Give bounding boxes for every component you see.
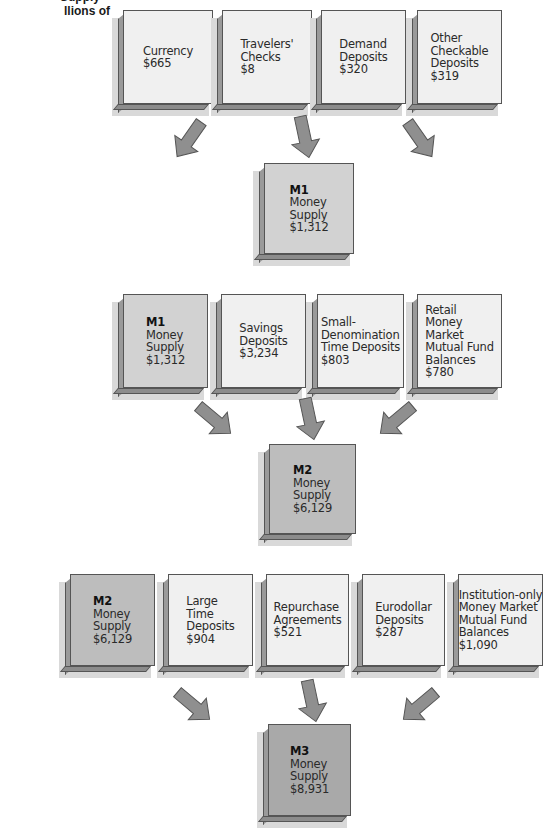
- value: $320: [339, 63, 387, 76]
- box-demand-deposits: Demand Deposits $320: [316, 10, 406, 110]
- label-line: Supply: [93, 620, 132, 633]
- value: $780: [425, 366, 494, 379]
- arrow-down-right-icon: [172, 684, 218, 730]
- arrow-down-icon: [287, 398, 333, 444]
- label-line: Time Deposits: [321, 341, 400, 354]
- box-savings-deposits: Savings Deposits $3,234: [216, 294, 306, 394]
- box-m2-total: M2 Money Supply $6,129: [264, 444, 356, 540]
- box-retail-money-market-funds: Retail Money Market Mutual Fund Balances…: [412, 294, 502, 394]
- label-line: Supply: [146, 341, 185, 354]
- label-line: Other: [431, 32, 489, 45]
- value: $6,129: [293, 502, 332, 515]
- box-m1-input: M1 Money Supply $1,312: [118, 294, 208, 394]
- label-line: Money Market: [459, 601, 543, 614]
- value: $1,090: [459, 639, 543, 652]
- value: $3,234: [239, 347, 287, 360]
- label-line: Travelers': [240, 38, 293, 51]
- box-small-denomination-time-deposits: Small- Denomination Time Deposits $803: [312, 294, 404, 394]
- label-line: Savings: [239, 322, 287, 335]
- label-line: Large: [186, 595, 234, 608]
- title-line-2: llions of: [0, 4, 112, 18]
- arrow-down-left-icon: [372, 398, 418, 444]
- label-line: Balances: [459, 626, 543, 639]
- aggregate-name: M1: [146, 316, 185, 329]
- value: $287: [375, 626, 432, 639]
- label-line: Eurodollar: [375, 601, 432, 614]
- arrow-down-right-icon: [193, 398, 239, 444]
- box-eurodollar-deposits: Eurodollar Deposits $287: [357, 574, 445, 672]
- arrow-down-left-icon: [395, 684, 441, 730]
- label-line: Deposits: [431, 57, 489, 70]
- box-m2-input: M2 Money Supply $6,129: [65, 574, 155, 672]
- box-repurchase-agreements: Repurchase Agreements $521: [261, 574, 349, 672]
- value: $1,312: [146, 354, 185, 367]
- value: $904: [186, 633, 234, 646]
- label-line: Small-: [321, 316, 400, 329]
- aggregate-name: M2: [293, 464, 332, 477]
- label-line: Deposits: [186, 620, 234, 633]
- arrow-down-right-icon: [165, 118, 211, 164]
- aggregate-name: M2: [93, 595, 132, 608]
- label-line: Mutual Fund: [425, 341, 494, 354]
- label-line: Demand: [339, 38, 387, 51]
- box-travelers-checks: Travelers' Checks $8: [217, 10, 312, 110]
- value: $1,312: [289, 221, 328, 234]
- value: $8,931: [290, 783, 329, 796]
- label-line: Money: [289, 196, 328, 209]
- label-line: Supply: [293, 489, 332, 502]
- label-line: Money: [425, 316, 494, 329]
- box-currency: Currency $665: [118, 10, 213, 110]
- arrow-down-left-icon: [398, 118, 444, 164]
- box-other-checkable-deposits: Other Checkable Deposits $319: [412, 10, 502, 110]
- arrow-down-icon: [282, 116, 328, 162]
- value: $521: [274, 626, 342, 639]
- box-institution-only-money-market-funds: Institution-only Money Market Mutual Fun…: [453, 574, 543, 672]
- value: $8: [240, 63, 293, 76]
- arrow-down-icon: [289, 680, 335, 726]
- value: $6,129: [93, 633, 132, 646]
- value: $665: [143, 57, 193, 70]
- box-large-time-deposits: Large Time Deposits $904: [163, 574, 253, 672]
- aggregate-name: M3: [290, 745, 329, 758]
- box-m1-total: M1 Money Supply $1,312: [259, 163, 354, 260]
- figure-title-fragment: Supply llions of: [0, 0, 112, 18]
- value: $803: [321, 354, 400, 367]
- box-m3-total: M3 Money Supply $8,931: [263, 724, 351, 822]
- value: $319: [431, 70, 489, 83]
- label-line: Supply: [290, 770, 329, 783]
- label-line: Repurchase: [274, 601, 342, 614]
